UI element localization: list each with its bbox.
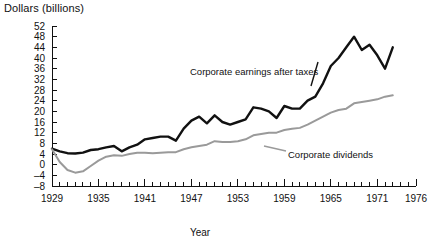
x-tick-label: 1929 bbox=[41, 193, 64, 204]
y-tick-label: 4 bbox=[39, 149, 45, 160]
y-tick-label: 40 bbox=[34, 53, 46, 64]
dividends-leader-line bbox=[264, 146, 286, 151]
y-tick-label: 20 bbox=[34, 106, 46, 117]
y-tick-label: 24 bbox=[34, 95, 46, 106]
x-tick-group: 192919351941194719531959196519711976 bbox=[41, 179, 428, 204]
y-tick-label: 16 bbox=[34, 117, 46, 128]
x-axis-title-text: Year bbox=[190, 227, 210, 238]
line-chart-plot: –8–40481216202428323640444852 1929193519… bbox=[0, 0, 428, 244]
y-tick-label: 28 bbox=[34, 85, 46, 96]
y-tick-group: –8–40481216202428323640444852 bbox=[34, 21, 57, 192]
x-axis-title: Year bbox=[0, 227, 428, 238]
x-tick-label: 1935 bbox=[87, 193, 110, 204]
y-tick-label: 0 bbox=[39, 159, 45, 170]
series-line-earnings bbox=[52, 37, 393, 154]
x-tick-label: 1965 bbox=[320, 193, 343, 204]
series-label-dividends: Corporate dividends bbox=[288, 149, 373, 160]
series-line-dividends bbox=[52, 95, 393, 172]
x-tick-label: 1947 bbox=[180, 193, 203, 204]
y-tick-label: 8 bbox=[39, 138, 45, 149]
x-tick-label: 1953 bbox=[227, 193, 250, 204]
y-tick-label: –4 bbox=[34, 170, 46, 181]
x-tick-label: 1971 bbox=[366, 193, 389, 204]
y-tick-label: –8 bbox=[34, 181, 46, 192]
y-tick-label: 44 bbox=[34, 42, 46, 53]
x-tick-label: 1959 bbox=[273, 193, 296, 204]
x-tick-label: 1976 bbox=[405, 193, 428, 204]
series-label-earnings: Corporate earnings after taxes bbox=[190, 66, 319, 77]
chart-container: Dollars (billions) –8–404812162024283236… bbox=[0, 0, 428, 244]
y-tick-label: 36 bbox=[34, 63, 46, 74]
y-tick-label: 52 bbox=[34, 21, 46, 32]
y-tick-label: 48 bbox=[34, 31, 46, 42]
x-axis-group: 192919351941194719531959196519711976 bbox=[41, 179, 428, 204]
y-tick-label: 12 bbox=[34, 127, 46, 138]
x-tick-label: 1941 bbox=[134, 193, 157, 204]
y-axis-group: –8–40481216202428323640444852 bbox=[34, 21, 57, 192]
y-tick-label: 32 bbox=[34, 74, 46, 85]
